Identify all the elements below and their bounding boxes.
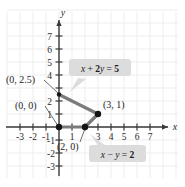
callout-2-text: x − y = 2 xyxy=(100,150,135,160)
y-axis-label: y xyxy=(60,7,66,18)
y-tick-label: 4 xyxy=(47,71,52,81)
equation-callout-1: x + 2y = 5 xyxy=(69,59,131,92)
x-tick-label: 7 xyxy=(148,132,153,142)
x-tick-label: -2 xyxy=(29,132,37,142)
vertex-label-0-0: (0, 0) xyxy=(15,100,37,112)
vertex-dot-0-2-5 xyxy=(57,92,61,96)
eq2-rhs: 2 xyxy=(129,150,134,160)
y-tick-label: 6 xyxy=(47,45,52,55)
x-axis-arrow xyxy=(162,124,168,129)
x-tick-label: -3 xyxy=(16,132,24,142)
vertex-label-3-1: (3, 1) xyxy=(103,99,125,111)
vertex-dot-origin xyxy=(56,124,62,130)
x-tick-label: 5 xyxy=(122,132,127,142)
y-tick-label: -3 xyxy=(47,162,55,172)
y-tick-label: -2 xyxy=(47,149,55,159)
y-tick-label: -1 xyxy=(47,136,55,146)
coordinate-plane-figure: -3 -2 -1 1 3 4 5 6 7 7 6 5 4 2 1 -1 -2 -… xyxy=(0,0,185,187)
y-tick-label: 5 xyxy=(47,58,52,68)
eq1-rhs: 5 xyxy=(114,64,119,74)
x-axis-label: x xyxy=(172,121,178,132)
graph-svg: -3 -2 -1 1 3 4 5 6 7 7 6 5 4 2 1 -1 -2 -… xyxy=(0,0,185,187)
vertex-dot-3-1 xyxy=(95,111,101,117)
vertex-label-0-2-5: (0, 2.5) xyxy=(6,74,35,86)
y-tick-label: 7 xyxy=(47,32,52,42)
vertex-dot-2-0 xyxy=(82,124,88,130)
x-tick-label: 4 xyxy=(109,132,114,142)
callout-1-text: x + 2y = 5 xyxy=(80,64,119,74)
x-tick-label: 1 xyxy=(70,132,75,142)
feasible-region-boundary xyxy=(59,95,98,128)
vertex-label-2-0: (2, 0) xyxy=(57,141,79,153)
x-tick-label: 6 xyxy=(135,132,140,142)
y-tick-label: 2 xyxy=(47,97,52,107)
